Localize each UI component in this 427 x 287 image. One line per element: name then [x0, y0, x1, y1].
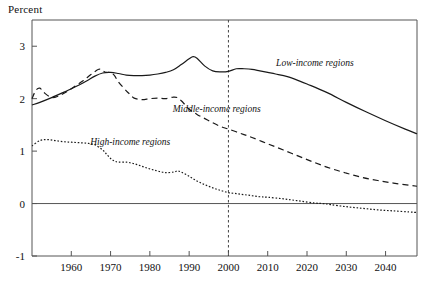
x-tick-label: 2030: [335, 261, 358, 273]
chart-figure: Percent -1012319601970198019902000201020…: [0, 0, 427, 287]
x-tick-label: 1980: [139, 261, 162, 273]
series-line-high-income-regions: [32, 140, 417, 213]
x-tick-label: 2000: [217, 261, 240, 273]
y-tick-label: -1: [16, 250, 25, 262]
series-annotation-low-income-regions: Low-income regions: [275, 58, 354, 68]
x-tick-label: 2020: [296, 261, 319, 273]
series-annotation-high-income-regions: High-income regions: [89, 137, 170, 147]
x-tick-label: 2040: [375, 261, 398, 273]
series-annotation-middle-income-regions: Middle-income regions: [172, 104, 261, 114]
series-line-middle-income-regions: [32, 69, 417, 186]
x-tick-label: 1990: [178, 261, 201, 273]
x-tick-label: 1970: [100, 261, 123, 273]
y-tick-label: 1: [20, 145, 26, 157]
y-tick-label: 2: [20, 93, 26, 105]
y-tick-label: 3: [20, 40, 26, 52]
x-tick-label: 2010: [257, 261, 280, 273]
x-tick-label: 1960: [60, 261, 83, 273]
series-line-low-income-regions: [32, 57, 417, 134]
line-chart-plot: -101231960197019801990200020102020203020…: [0, 0, 427, 287]
y-tick-label: 0: [20, 198, 26, 210]
